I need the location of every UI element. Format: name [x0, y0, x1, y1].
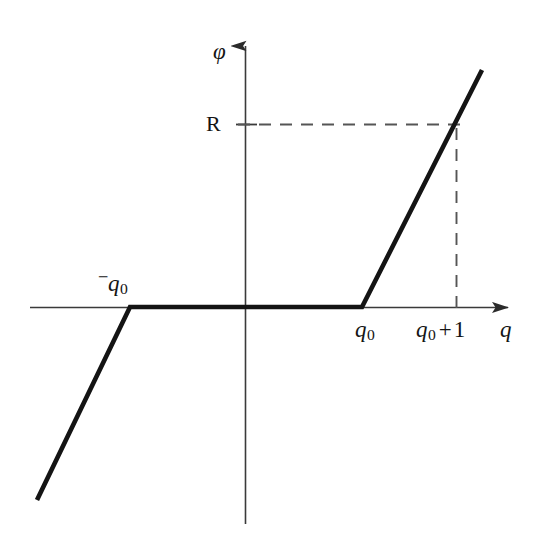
subscript-zero-glyph: 0: [428, 326, 436, 343]
x-tick-label-q0: q0: [355, 318, 375, 343]
figure-canvas: φ R q −q0 q0 q0+1: [0, 0, 559, 553]
plus-sign-glyph: +: [439, 317, 452, 342]
y-axis-label: φ: [213, 40, 226, 63]
q-variable-glyph: q: [416, 317, 428, 342]
one-digit-glyph: 1: [454, 317, 466, 342]
subscript-zero-glyph: 0: [367, 326, 375, 343]
minus-sign-glyph: −: [98, 267, 108, 287]
x-tick-label-q0-plus-1: q0+1: [416, 318, 465, 343]
plot-svg: [0, 0, 559, 553]
x-tick-label-neg-q0: −q0: [98, 268, 128, 297]
q-variable-glyph: q: [355, 317, 367, 342]
y-tick-label-R: R: [206, 113, 221, 135]
subscript-zero-glyph: 0: [120, 280, 128, 297]
q-variable-glyph: q: [108, 271, 120, 296]
x-axis-label: q: [500, 318, 512, 341]
